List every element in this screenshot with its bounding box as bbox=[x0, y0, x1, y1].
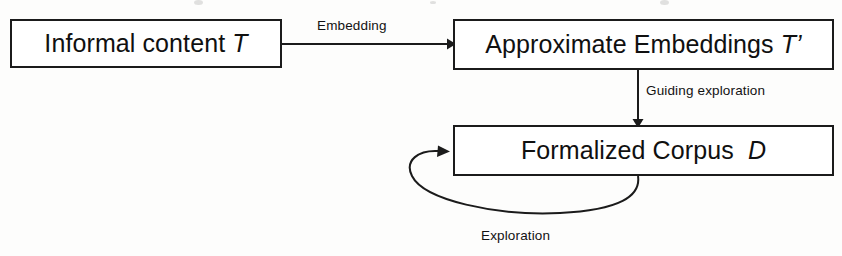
edge-label-exploration: Exploration bbox=[481, 228, 550, 243]
diagram-canvas: Informal content T Approximate Embedding… bbox=[0, 0, 842, 256]
node-approximate-embeddings[interactable]: Approximate Embeddings T’ bbox=[453, 19, 834, 70]
embedding-arrow bbox=[282, 39, 456, 50]
node-informal-content-label: Informal content T bbox=[44, 29, 247, 58]
edge-label-embedding: Embedding bbox=[317, 18, 387, 33]
node-informal-content[interactable]: Informal content T bbox=[10, 19, 282, 68]
guiding-exploration-arrow bbox=[633, 70, 644, 128]
node-formalized-corpus-label: Formalized Corpus D bbox=[521, 136, 766, 165]
node-approximate-embeddings-label: Approximate Embeddings T’ bbox=[485, 30, 802, 59]
node-formalized-corpus[interactable]: Formalized Corpus D bbox=[453, 125, 834, 176]
edge-label-guiding-exploration: Guiding exploration bbox=[646, 83, 765, 98]
